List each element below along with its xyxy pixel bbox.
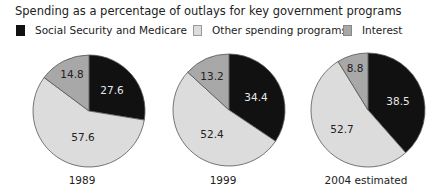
pie-1989 — [33, 55, 145, 167]
pie-2004-year: 2004 estimated — [325, 174, 408, 186]
pie-1999 — [173, 54, 285, 166]
pie-2004-interest-value: 8.8 — [347, 62, 364, 74]
pie-charts: 27.6 57.6 14.8 1989 34.4 52.4 13.2 1999 … — [0, 0, 436, 195]
pie-1989-year: 1989 — [69, 174, 96, 186]
pie-2004 — [311, 53, 425, 167]
pie-1999-interest-value: 13.2 — [200, 70, 223, 82]
pie-2004-ss-value: 38.5 — [386, 95, 409, 107]
pie-2004-other-value: 52.7 — [330, 123, 353, 135]
pie-1999-ss-value: 34.4 — [244, 91, 268, 103]
pie-1989-interest-value: 14.8 — [60, 68, 83, 80]
pie-1989-other-value: 57.6 — [71, 131, 95, 143]
pie-1989-ss-value: 27.6 — [100, 84, 124, 96]
pie-1999-year: 1999 — [210, 174, 237, 186]
pie-1999-other-value: 52.4 — [200, 128, 224, 140]
